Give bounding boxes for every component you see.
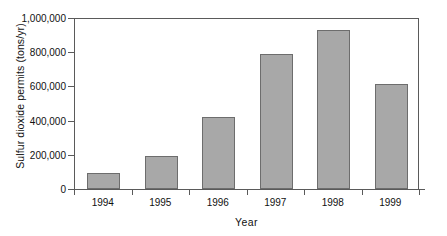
bar-1996	[202, 117, 235, 189]
x-tick-mark	[304, 189, 305, 195]
y-tick-label: 800,000	[2, 47, 66, 58]
y-tick-label: 0	[2, 184, 66, 195]
x-tick-mark	[132, 189, 133, 195]
y-tick-label: 600,000	[2, 81, 66, 92]
x-tick-label-1994: 1994	[73, 197, 133, 208]
y-tick-label: 400,000	[2, 115, 66, 126]
x-tick-mark	[419, 189, 420, 195]
bar-1995	[145, 156, 178, 189]
x-tick-mark	[362, 189, 363, 195]
y-tick-label: 200,000	[2, 149, 66, 160]
x-tick-mark	[74, 189, 75, 195]
x-tick-label-1999: 1999	[360, 197, 420, 208]
y-axis-title: Sulfur dioxide permits (tons/yr)	[8, 0, 32, 196]
x-tick-label-1996: 1996	[188, 197, 248, 208]
bar-1997	[260, 54, 293, 189]
y-tick-label: 1,000,000	[2, 13, 66, 24]
bar-chart-figure: Sulfur dioxide permits (tons/yr) 0200,00…	[0, 0, 447, 236]
x-tick-label-1997: 1997	[245, 197, 305, 208]
bar-1999	[375, 84, 408, 189]
bar-1994	[87, 173, 120, 189]
x-tick-label-1998: 1998	[303, 197, 363, 208]
x-tick-mark	[189, 189, 190, 195]
bar-1998	[317, 30, 350, 189]
plot-area	[74, 18, 419, 189]
x-axis-title: Year	[74, 216, 419, 228]
x-tick-label-1995: 1995	[130, 197, 190, 208]
x-tick-mark	[247, 189, 248, 195]
